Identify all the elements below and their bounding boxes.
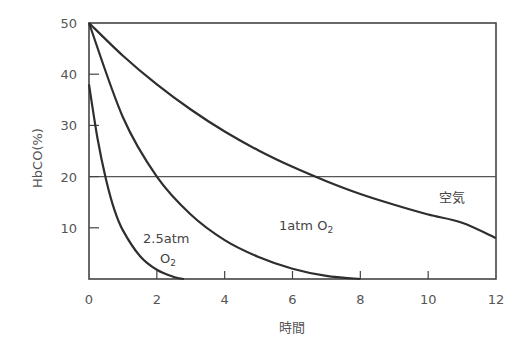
annotation-1atm-sub: 2 [327,225,333,235]
annotation-2-5atm: 2.5atm [143,231,189,246]
y-tick-label: 20 [60,170,77,185]
x-tick-label: 4 [221,292,229,307]
x-tick-label: 12 [488,292,505,307]
y-tick-label: 40 [60,67,77,82]
x-tick-label: 8 [356,292,364,307]
x-tick-label: 6 [288,292,296,307]
series-line-2 [89,84,184,279]
y-tick-label: 30 [60,118,77,133]
series-line-0 [89,23,496,238]
hbco-chart: 0246810121020304050 HbCO(%) 時間 空気 1atm O… [0,0,532,355]
y-axis-label: HbCO(%) [30,128,45,188]
x-tick-label: 2 [153,292,161,307]
x-tick-label: 0 [85,292,93,307]
annotation-2-5atm-sub: 2 [170,258,176,268]
annotation-2-5atm-o: O [160,251,170,266]
annotation-air: 空気 [439,190,465,205]
annotation-1atm-main: 1atm O [279,218,327,233]
x-tick-label: 10 [420,292,437,307]
y-tick-label: 10 [60,221,77,236]
y-tick-label: 50 [60,16,77,31]
annotation-2-5atm-o2: O2 [160,251,176,268]
x-axis-label: 時間 [279,320,305,335]
annotation-1atm: 1atm O2 [279,218,333,235]
